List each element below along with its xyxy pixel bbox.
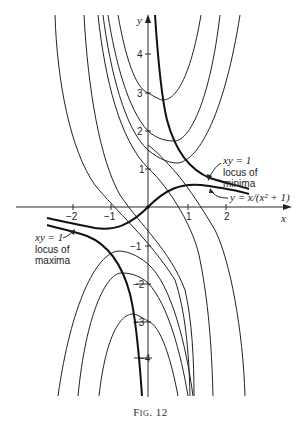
cap-curve-2 <box>78 273 188 396</box>
u-curve-2 <box>108 15 220 141</box>
u-curve-1 <box>118 15 201 100</box>
x-tick-label: 2 <box>224 211 230 222</box>
maxima-desc-2: maxima <box>35 255 70 266</box>
y-tick-label: −2 <box>133 279 145 290</box>
y-tick-label: 2 <box>137 126 143 137</box>
maxima-desc-1: locus of <box>35 244 70 255</box>
descending-curve-1 <box>98 15 213 396</box>
y-tick-label: −4 <box>139 353 151 364</box>
axes: x y <box>16 14 292 397</box>
minima-desc-2: minima <box>223 178 256 189</box>
special-pointer-arrow-icon <box>212 191 228 198</box>
x-tick-label: −1 <box>104 211 116 222</box>
y-tick-label: 1 <box>139 164 145 175</box>
x-axis-arrow-icon <box>283 204 292 210</box>
minima-desc-1: locus of <box>223 167 258 178</box>
minima-eq: xy = 1 <box>222 154 251 166</box>
maxima-eq: xy = 1 <box>34 231 63 243</box>
y-tick-label: 3 <box>137 88 143 99</box>
y-tick-label: −1 <box>130 241 142 252</box>
figure-caption: Fig. 12 <box>0 406 301 418</box>
descending-curve-3 <box>55 15 190 396</box>
special-arrowhead-icon <box>209 188 214 193</box>
origin-point <box>146 205 150 209</box>
y-tick-label: 4 <box>137 49 143 60</box>
x-tick-label: −2 <box>66 211 78 222</box>
y-axis-label: y <box>136 14 142 26</box>
annotation-special: y = x/(x² + 1) <box>209 188 290 204</box>
annotation-maxima: xy = 1 locus of maxima <box>34 229 75 266</box>
figure-12-plot: x y −2 −1 1 2 4 3 2 1 −1 −2 −3 −4 <box>0 0 301 427</box>
special-curve-eq: y = x/(x² + 1) <box>229 191 290 204</box>
x-axis-label: x <box>280 212 286 224</box>
annotation-minima: xy = 1 locus of minima <box>207 154 258 189</box>
x-tick-label: 1 <box>186 211 192 222</box>
y-axis-arrow-icon <box>145 14 151 23</box>
